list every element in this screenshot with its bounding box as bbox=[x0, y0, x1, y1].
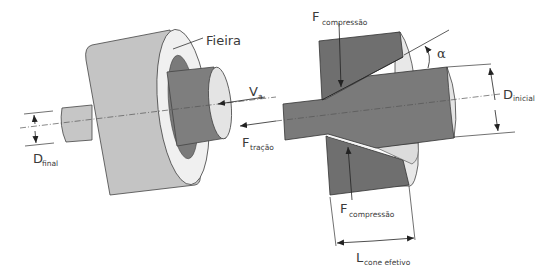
compression-force-bottom-label: F bbox=[340, 201, 347, 216]
dinicial-sub: inicial bbox=[513, 94, 535, 103]
velocity-sub: a bbox=[258, 92, 263, 101]
lcone-sub: cone efetivo bbox=[364, 258, 411, 267]
velocity-label: V bbox=[249, 84, 258, 99]
dfinal-ext-top bbox=[24, 111, 53, 114]
dfinal-arrow-down bbox=[35, 131, 36, 143]
lcone-arrow-right bbox=[373, 238, 414, 241]
compression-force-top-sub: compressão bbox=[322, 18, 368, 27]
lcone-arrow-left bbox=[337, 241, 373, 243]
lcone-ext-left bbox=[330, 197, 336, 246]
lcone-ext-right bbox=[409, 186, 415, 240]
dfinal-arrow-up bbox=[34, 115, 35, 124]
dinicial-arrow-up bbox=[490, 68, 495, 100]
compression-force-bottom-sub: compressão bbox=[349, 210, 395, 219]
right-view: α F compressão F compressão D inicial L … bbox=[276, 9, 535, 267]
traction-force-label: F bbox=[242, 135, 249, 150]
dfinal-ext-bottom bbox=[25, 143, 54, 146]
dinicial-arrow-down bbox=[495, 110, 498, 131]
alpha-arc bbox=[425, 46, 429, 68]
left-view: Fieira V a F tração D final bbox=[20, 27, 276, 195]
dinicial-ext-bottom bbox=[454, 132, 515, 137]
alpha-label: α bbox=[437, 46, 446, 61]
output-wire bbox=[61, 105, 92, 142]
lcone-label: L bbox=[356, 250, 364, 265]
dinicial-label: D bbox=[503, 87, 513, 102]
compression-force-top-label: F bbox=[312, 9, 319, 24]
wire-drawing-diagram: Fieira V a F tração D final bbox=[0, 0, 552, 279]
dinicial-ext-top bbox=[447, 64, 491, 67]
traction-force-arrow bbox=[240, 121, 276, 126]
die-label: Fieira bbox=[206, 33, 241, 48]
wire-profile bbox=[283, 67, 454, 148]
dfinal-sub: final bbox=[42, 159, 58, 168]
traction-force-sub: tração bbox=[250, 143, 274, 152]
